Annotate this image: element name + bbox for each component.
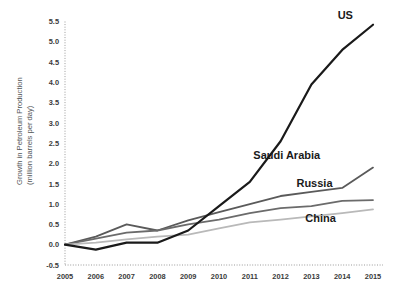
y-axis-title-line1: Growth in Petroleum Production [15,77,24,185]
y-tick-label: 1.5 [49,180,59,189]
y-tick-label: 2.0 [49,159,59,168]
y-tick-label: 4.0 [49,78,59,87]
chart-container: -0.50.00.51.01.52.02.53.03.54.04.55.05.5… [0,0,394,303]
x-tick-label: 2013 [303,272,319,281]
y-tick-label: 5.0 [49,37,59,46]
series-label-saudi-arabia: Saudi Arabia [253,149,321,161]
y-tick-label: 3.5 [49,98,59,107]
y-tick-label: 5.5 [49,17,59,26]
y-axis-title-line2: (million barrels per day) [25,105,34,185]
y-tick-label: 1.0 [49,200,59,209]
x-tick-label: 2006 [88,272,104,281]
x-tick-label: 2008 [149,272,165,281]
series-label-china: China [305,212,336,224]
series-label-russia: Russia [296,177,333,189]
petroleum-production-line-chart: -0.50.00.51.01.52.02.53.03.54.04.55.05.5… [0,0,394,303]
x-tick-label: 2012 [272,272,288,281]
x-tick-label: 2005 [57,272,73,281]
x-tick-label: 2015 [365,272,381,281]
y-tick-label: 0.0 [49,240,59,249]
y-tick-label: 3.0 [49,119,59,128]
x-tick-label: 2007 [118,272,134,281]
y-tick-label: -0.5 [46,261,59,270]
y-tick-label: 0.5 [49,220,59,229]
x-tick-label: 2009 [180,272,196,281]
chart-background [0,0,394,303]
x-tick-label: 2010 [211,272,227,281]
x-tick-label: 2011 [242,272,258,281]
y-tick-label: 4.5 [49,58,59,67]
series-label-us: US [338,9,353,21]
x-tick-label: 2014 [334,272,351,281]
y-tick-label: 2.5 [49,139,59,148]
